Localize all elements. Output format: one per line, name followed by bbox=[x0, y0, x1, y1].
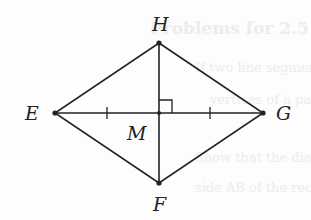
point-F bbox=[156, 180, 161, 185]
point-M bbox=[157, 111, 161, 115]
point-E bbox=[52, 110, 57, 115]
diagram-canvas: Problems for 2.5 If two line segments a … bbox=[0, 0, 311, 220]
point-H bbox=[156, 40, 161, 45]
point-G bbox=[260, 110, 265, 115]
label-H: H bbox=[151, 13, 169, 35]
label-M: M bbox=[126, 122, 147, 144]
right-angle-marker bbox=[159, 100, 172, 113]
label-F: F bbox=[152, 193, 167, 215]
rhombus-figure: H E G M F bbox=[0, 0, 311, 220]
label-G: G bbox=[276, 102, 291, 124]
label-E: E bbox=[24, 102, 39, 124]
